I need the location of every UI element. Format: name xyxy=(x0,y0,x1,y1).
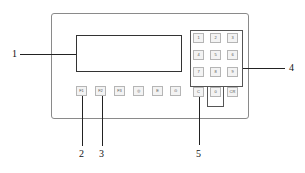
key-2[interactable]: 2 xyxy=(210,33,221,43)
callout-4: 4 xyxy=(289,62,294,73)
callout-3: 3 xyxy=(99,148,104,159)
lcd-display xyxy=(76,35,182,72)
key-cr[interactable]: CR xyxy=(227,87,238,97)
key-3[interactable]: 3 xyxy=(227,33,238,43)
e-key[interactable]: E xyxy=(152,86,163,96)
callout-2: 2 xyxy=(79,148,84,159)
callout-1: 1 xyxy=(12,48,17,59)
key-5[interactable]: 5 xyxy=(210,50,221,60)
callout-5: 5 xyxy=(196,148,201,159)
key-1[interactable]: 1 xyxy=(193,33,204,43)
key-4[interactable]: 4 xyxy=(193,50,204,60)
key-8[interactable]: 8 xyxy=(210,67,221,77)
f2-key[interactable]: F2 xyxy=(95,86,106,96)
key-7[interactable]: 7 xyxy=(193,67,204,77)
power-key[interactable]: ⊙ xyxy=(170,86,181,96)
callout-line-2 xyxy=(82,96,83,146)
callout-line-3 xyxy=(102,96,103,146)
zero-key-outline xyxy=(207,86,224,107)
key-6[interactable]: 6 xyxy=(227,50,238,60)
function-key-4[interactable]: ◎ xyxy=(133,86,144,96)
callout-line-1 xyxy=(20,54,76,55)
f1-key[interactable]: F1 xyxy=(76,86,87,96)
f3-key[interactable]: F3 xyxy=(114,86,125,96)
key-c[interactable]: C xyxy=(193,87,204,97)
callout-line-4 xyxy=(243,68,285,69)
key-9[interactable]: 9 xyxy=(227,67,238,77)
callout-line-5 xyxy=(199,97,200,145)
